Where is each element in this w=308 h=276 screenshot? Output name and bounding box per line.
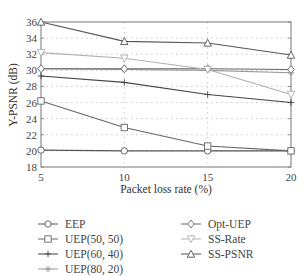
y-tick-label: 32 [26,48,37,60]
legend-label: Opt-UEP [208,218,251,230]
legend-item: UEP(60, 40) [37,246,123,261]
triangle-down-marker-icon [180,233,202,245]
y-tick-label: 18 [26,161,38,173]
legend-left: EEPUEP(50, 50)UEP(60, 40)UEP(80, 20) [37,216,123,276]
diamond-marker-icon [180,218,202,230]
y-tick-label: 20 [26,145,38,157]
y-tick-label: 30 [26,64,38,76]
legend-item: UEP(80, 20) [37,261,123,276]
series-uep-50-50 [38,98,294,154]
legend-right: Opt-UEPSS-RateSS-PSNR [180,216,253,261]
triangle-up-marker-icon [180,248,202,260]
circle-marker-icon [37,218,59,230]
y-tick-label: 24 [26,113,38,125]
plus-marker-icon [37,248,59,260]
legend-label: UEP(60, 40) [65,248,123,260]
legend-label: UEP(80, 20) [65,263,123,275]
y-axis-label: Y-PSNR (dB) [7,63,20,127]
legend-label: SS-Rate [208,233,246,245]
series-ss-rate [37,49,294,98]
plot-area-frame [41,22,291,167]
grid-lines [41,22,291,167]
square-marker-icon [37,233,59,245]
x-axis-label: Packet loss rate (%) [120,183,212,196]
legend-label: EEP [65,218,85,230]
legend-item: UEP(50, 50) [37,231,123,246]
y-tick-label: 34 [26,32,38,44]
legend-label: SS-PSNR [208,248,253,260]
star-marker-icon [37,263,59,275]
legend-label: UEP(50, 50) [65,233,123,245]
x-tick-label: 15 [202,171,214,183]
y-tick-label: 26 [26,97,38,109]
series-eep [38,147,294,154]
legend-item: SS-Rate [180,231,253,246]
series-uep-60-40 [38,73,294,106]
y-tick-label: 28 [26,80,38,92]
x-tick-label: 20 [286,171,298,183]
x-tick-label: 10 [119,171,131,183]
y-tick-label: 22 [26,129,37,141]
x-axis-ticks: 5101520 [38,171,297,183]
legend-item: EEP [37,216,123,231]
y-axis-ticks: 18202224262830323436 [26,16,291,173]
legend-item: SS-PSNR [180,246,253,261]
line-chart: 18202224262830323436 5101520 Y-PSNR (dB)… [0,0,308,200]
x-tick-label: 5 [38,171,44,183]
legend-item: Opt-UEP [180,216,253,231]
y-tick-label: 36 [26,16,38,28]
series-uep-80-20 [38,66,294,76]
